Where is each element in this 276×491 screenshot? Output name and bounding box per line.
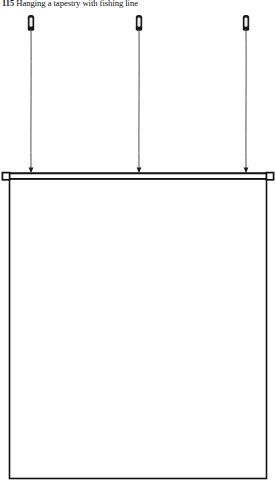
center-nail <box>136 15 142 31</box>
right-nail <box>243 15 249 31</box>
tapestry-body <box>10 179 267 479</box>
left-nail <box>28 15 34 31</box>
hanging-rod <box>9 173 267 178</box>
right-finial <box>266 173 273 180</box>
tapestry-hanging-diagram <box>0 0 276 491</box>
nail-group <box>28 15 249 31</box>
fishing-line-group <box>31 30 246 172</box>
left-finial <box>2 173 9 180</box>
